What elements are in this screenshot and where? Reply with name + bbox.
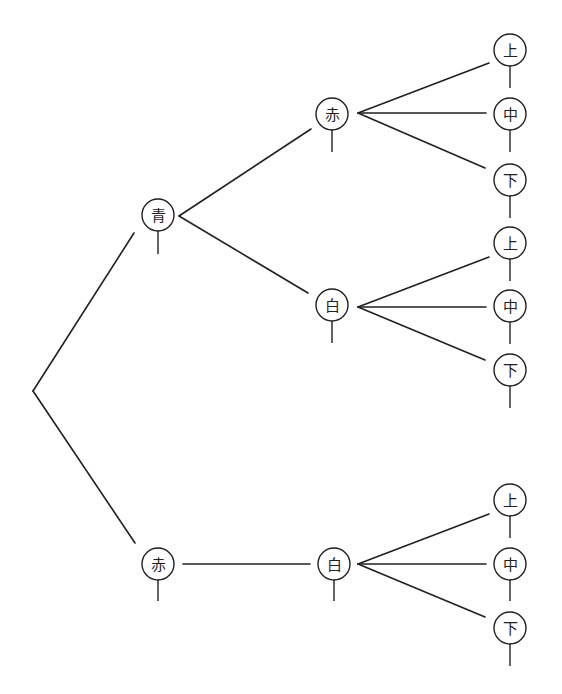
node-label: 下 xyxy=(503,362,518,380)
tree-node: 赤 xyxy=(142,548,174,601)
edge-n11-n12 xyxy=(358,514,489,564)
tree-node: 下 xyxy=(494,612,526,666)
edge-n2-n4 xyxy=(358,63,489,113)
node-label: 中 xyxy=(503,298,518,316)
edge-n3-n7 xyxy=(358,257,489,307)
tree-node: 中 xyxy=(494,98,526,152)
node-label: 下 xyxy=(503,620,518,638)
node-label: 青 xyxy=(151,207,166,225)
node-label: 中 xyxy=(503,556,518,574)
node-label: 中 xyxy=(503,106,518,124)
tree-node: 下 xyxy=(494,164,526,218)
tree-node: 上 xyxy=(494,484,526,538)
tree-node: 白 xyxy=(318,548,350,601)
edge-n3-n9 xyxy=(358,307,485,360)
node-label: 白 xyxy=(327,556,342,574)
tree-diagram: 青赤白上中下上中下赤白上中下 xyxy=(0,0,562,694)
nodes-group: 青赤白上中下上中下赤白上中下 xyxy=(142,34,526,666)
tree-node: 上 xyxy=(494,34,526,88)
tree-node: 中 xyxy=(494,290,526,344)
tree-node: 青 xyxy=(142,199,174,254)
node-label: 赤 xyxy=(325,106,340,124)
edge-root-n1 xyxy=(33,233,134,391)
tree-node: 上 xyxy=(494,227,526,281)
tree-node: 中 xyxy=(494,548,526,601)
tree-node: 白 xyxy=(316,289,348,343)
edge-n1-n3 xyxy=(179,216,308,293)
edges-group xyxy=(33,63,489,617)
edge-n1-n2 xyxy=(179,129,311,216)
node-label: 上 xyxy=(503,42,518,60)
node-label: 赤 xyxy=(151,556,166,574)
edge-n2-n6 xyxy=(358,113,485,168)
node-label: 下 xyxy=(503,172,518,190)
tree-node: 下 xyxy=(494,354,526,408)
edge-root-n10 xyxy=(33,391,135,543)
edge-n11-n14 xyxy=(358,564,485,617)
node-label: 上 xyxy=(503,235,518,253)
node-label: 上 xyxy=(503,492,518,510)
node-label: 白 xyxy=(325,297,340,315)
tree-node: 赤 xyxy=(316,98,348,152)
